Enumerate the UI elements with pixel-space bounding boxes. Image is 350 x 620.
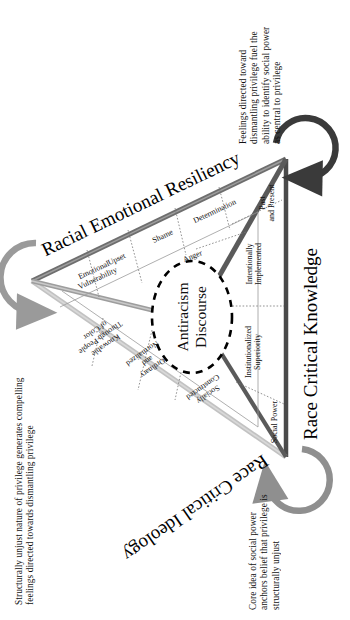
- segment-line2: Implemented: [255, 243, 264, 285]
- segment-line2: Superiority: [254, 326, 263, 378]
- figure-canvas: Racial Emotional Resiliency Race Critica…: [0, 0, 350, 620]
- segment-social-power: Social Power: [271, 401, 280, 443]
- segment-institutionalized-superiority: Institutionalized Superiority: [245, 326, 263, 378]
- core-label-line2: Discourse: [192, 283, 210, 352]
- segment-past-and-present: Past and Present: [259, 184, 277, 221]
- core-label-line1: Antiracism: [174, 283, 192, 352]
- caption-bottom-right: Core idea of social power anchors belief…: [248, 480, 282, 610]
- core-antiracism-discourse-label: Antiracism Discourse: [174, 283, 210, 352]
- side-title-race-critical-knowledge: Race Critical Knowledge: [300, 248, 322, 440]
- segment-line2: and Present: [268, 184, 277, 221]
- segment-intentionally-implemented: Intentionally Implemented: [246, 243, 264, 285]
- curved-arrow-left: [0, 243, 36, 312]
- caption-top-right: Feelings directed toward dismantling pri…: [238, 22, 283, 144]
- side-title-label: Race Critical Knowledge: [300, 248, 321, 440]
- segment-line1: Social Power: [271, 401, 280, 443]
- caption-left: Structurally unjust nature of privilege …: [14, 355, 37, 605]
